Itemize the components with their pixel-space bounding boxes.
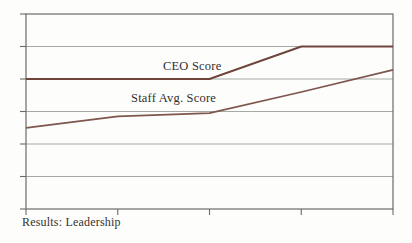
figure-caption: Results: Leadership [22, 215, 121, 230]
series-label-ceo-score: CEO Score [163, 59, 221, 74]
chart-figure: CEO Score Staff Avg. Score Results: Lead… [0, 0, 412, 243]
series-label-staff-avg-score: Staff Avg. Score [131, 91, 216, 106]
line-chart-canvas [0, 0, 412, 243]
